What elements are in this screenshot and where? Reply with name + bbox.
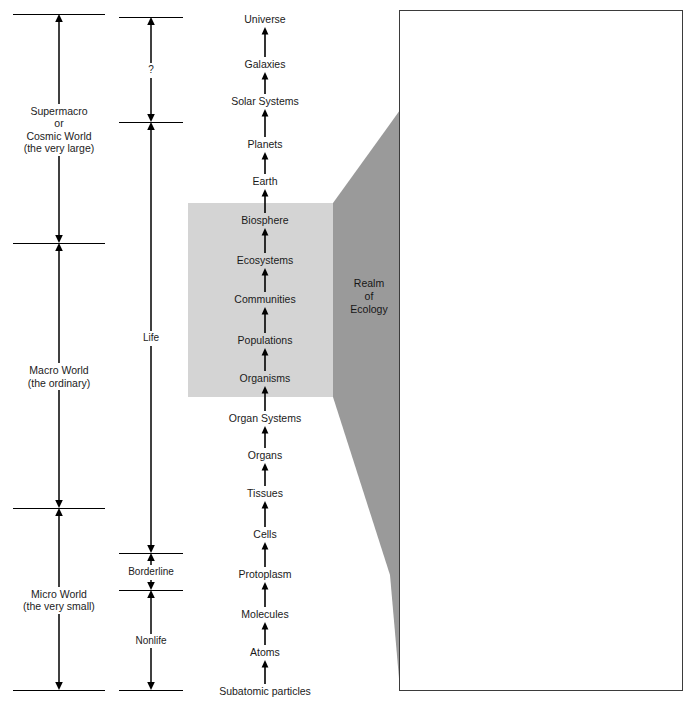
- ladder-up-arrow-6: [257, 268, 273, 292]
- ladder-up-arrow-15: [257, 622, 273, 645]
- ladder-level-cells: Cells: [190, 528, 340, 540]
- ladder-up-arrow-8: [257, 348, 273, 371]
- ladder-level-universe: Universe: [190, 13, 340, 25]
- ladder-level-biosphere: Biosphere: [190, 214, 340, 226]
- ladder-level-atoms: Atoms: [190, 646, 340, 658]
- ladder-up-arrow-13: [257, 542, 273, 567]
- ladder-up-arrow-4: [257, 189, 273, 213]
- ladder-up-arrow-0: [257, 27, 273, 57]
- ladder-level-solar-systems: Solar Systems: [190, 95, 340, 107]
- ladder-up-arrow-16: [257, 660, 273, 684]
- ladder-level-communities: Communities: [190, 293, 340, 305]
- ladder-up-arrow-11: [257, 463, 273, 486]
- ladder-level-earth: Earth: [190, 175, 340, 187]
- organization-ladder: UniverseGalaxiesSolar SystemsPlanetsEart…: [190, 0, 340, 716]
- ladder-level-molecules: Molecules: [190, 608, 340, 620]
- ladder-up-arrow-10: [257, 426, 273, 448]
- ladder-up-arrow-7: [257, 307, 273, 333]
- ladder-level-organ-systems: Organ Systems: [190, 412, 340, 424]
- ladder-up-arrow-14: [257, 582, 273, 607]
- ladder-up-arrow-3: [257, 152, 273, 174]
- ladder-level-subatomic-particles: Subatomic particles: [190, 685, 340, 697]
- ladder-up-arrow-1: [257, 72, 273, 94]
- ladder-level-planets: Planets: [190, 138, 340, 150]
- ladder-level-organisms: Organisms: [190, 372, 340, 384]
- ladder-up-arrow-9: [257, 386, 273, 411]
- ladder-level-ecosystems: Ecosystems: [190, 254, 340, 266]
- ladder-up-arrow-2: [257, 109, 273, 137]
- realm-of-ecology-label: Realm of Ecology: [340, 277, 398, 316]
- illustration-stack: [399, 10, 683, 691]
- ladder-up-arrow-5: [257, 228, 273, 253]
- ladder-level-galaxies: Galaxies: [190, 58, 340, 70]
- ladder-level-protoplasm: Protoplasm: [190, 568, 340, 580]
- ladder-level-populations: Populations: [190, 334, 340, 346]
- ladder-up-arrow-12: [257, 501, 273, 527]
- ladder-level-organs: Organs: [190, 449, 340, 461]
- figure-canvas: Supermacro or Cosmic World (the very lar…: [0, 0, 688, 716]
- ladder-level-tissues: Tissues: [190, 487, 340, 499]
